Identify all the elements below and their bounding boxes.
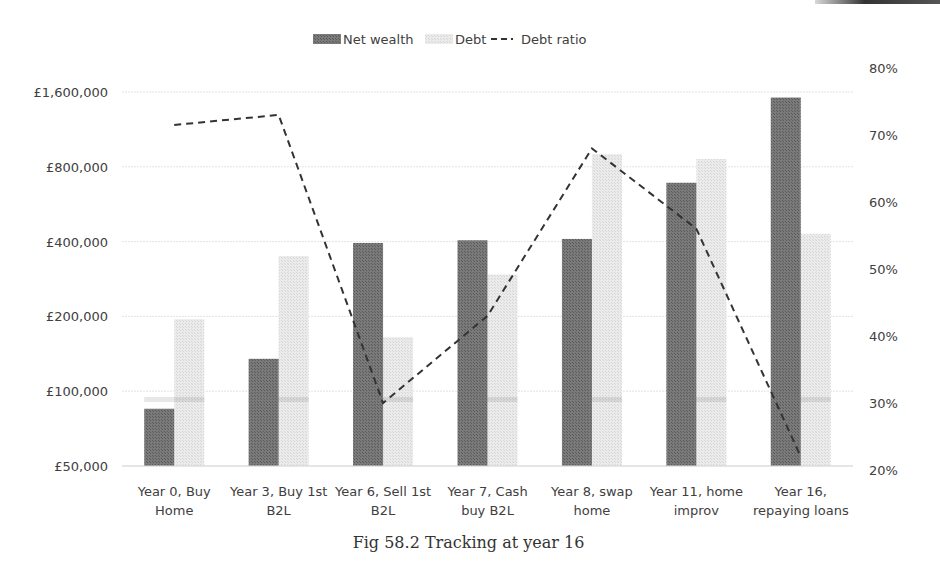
category-label: improv — [674, 503, 720, 518]
category-label: Year 16, — [774, 484, 827, 499]
debt-legend-swatch — [425, 34, 453, 44]
chart-legend: Net wealthDebtDebt ratio — [313, 32, 587, 47]
right-axis-tick-label: 80% — [869, 61, 898, 76]
scan-artifact — [144, 397, 204, 402]
legend-label: Debt ratio — [521, 32, 587, 47]
category-label: B2L — [266, 503, 291, 518]
legend-label: Net wealth — [343, 32, 414, 47]
x-axis-categories: Year 0, BuyHomeYear 3, Buy 1stB2LYear 6,… — [137, 484, 849, 518]
net-wealth-bar — [562, 239, 592, 466]
category-label: Year 3, Buy 1st — [229, 484, 327, 499]
net-wealth-bar — [353, 243, 383, 466]
debt-bar — [696, 159, 726, 466]
right-axis-tick-label: 70% — [869, 128, 898, 143]
combo-chart: Net wealthDebtDebt ratio £50,000£100,000… — [0, 0, 937, 530]
left-axis-tick-label: £100,000 — [46, 384, 108, 399]
scan-artifact — [666, 397, 726, 402]
net-wealth-bar — [249, 359, 279, 466]
category-label: B2L — [371, 503, 396, 518]
category-label: buy B2L — [461, 503, 515, 518]
left-axis-tick-label: £50,000 — [54, 459, 108, 474]
category-label: Year 8, swap — [550, 484, 633, 499]
net-wealth-bar — [144, 409, 174, 466]
figure-caption: Fig 58.2 Tracking at year 16 — [0, 533, 937, 552]
right-y-axis: 20%30%40%50%60%70%80% — [869, 61, 898, 478]
category-label: Home — [155, 503, 193, 518]
category-label: Year 11, home — [649, 484, 743, 499]
debt-bar — [592, 154, 622, 466]
category-label: home — [573, 503, 610, 518]
net-wealth-legend-swatch — [313, 34, 341, 44]
debt-bar — [279, 256, 309, 466]
category-label: Year 6, Sell 1st — [334, 484, 431, 499]
debt-bar — [801, 234, 831, 466]
scan-artifact — [562, 397, 622, 402]
scan-artifact — [249, 397, 309, 402]
right-axis-tick-label: 50% — [869, 262, 898, 277]
net-wealth-bar — [458, 240, 488, 466]
right-axis-tick-label: 40% — [869, 329, 898, 344]
net-wealth-bar — [771, 98, 801, 466]
category-label: repaying loans — [753, 503, 849, 518]
left-axis-tick-label: £800,000 — [46, 160, 108, 175]
category-label: Year 0, Buy — [137, 484, 211, 499]
bars — [122, 98, 853, 466]
legend-label: Debt — [455, 32, 486, 47]
scan-artifact — [458, 397, 518, 402]
right-axis-tick-label: 30% — [869, 396, 898, 411]
debt-bar — [488, 274, 518, 466]
left-y-axis: £50,000£100,000£200,000£400,000£800,000£… — [34, 85, 108, 474]
category-label: Year 7, Cash — [446, 484, 527, 499]
left-axis-tick-label: £400,000 — [46, 235, 108, 250]
left-axis-tick-label: £200,000 — [46, 309, 108, 324]
right-axis-tick-label: 60% — [869, 195, 898, 210]
left-axis-tick-label: £1,600,000 — [34, 85, 108, 100]
scan-artifact — [771, 397, 831, 402]
debt-bar — [174, 319, 204, 466]
right-axis-tick-label: 20% — [869, 463, 898, 478]
